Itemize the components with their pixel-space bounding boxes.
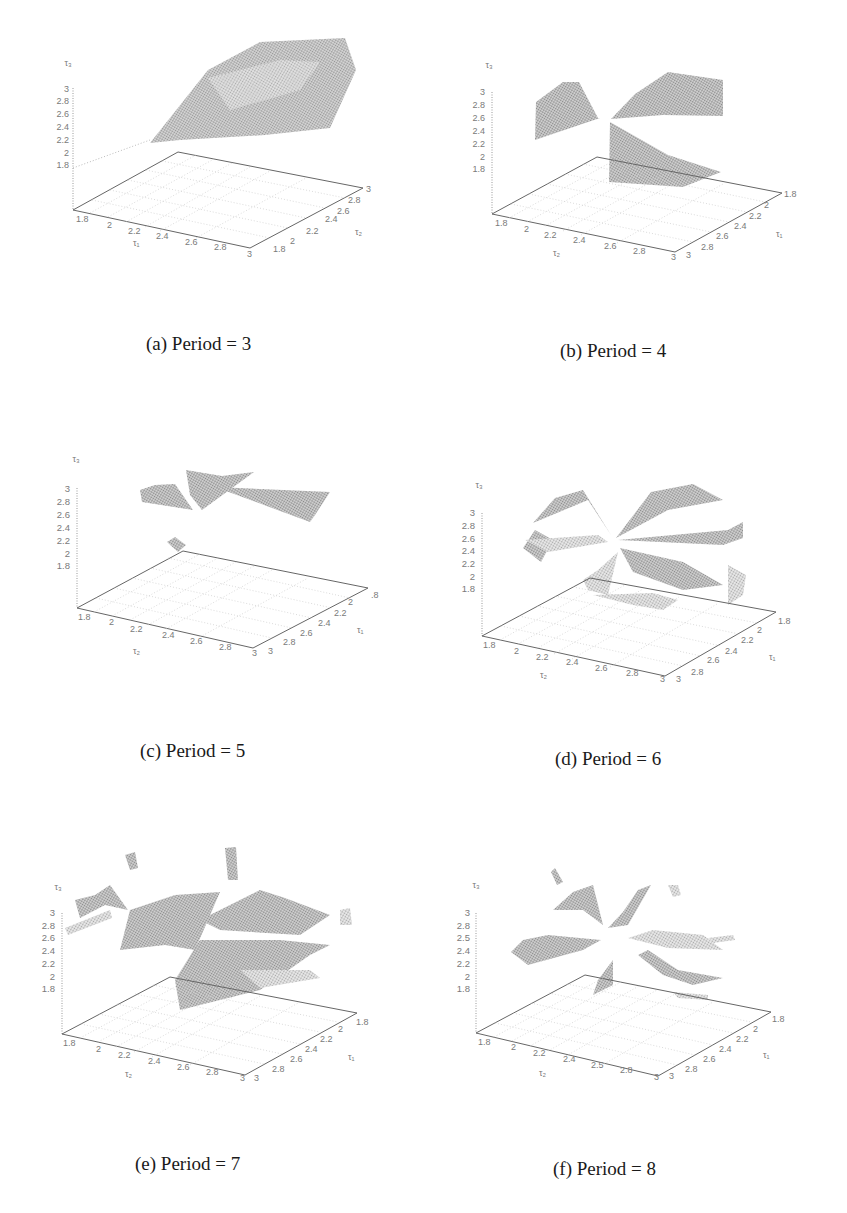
svg-text:2.6: 2.6 [190,636,203,646]
surface-region [523,484,746,610]
z-axis: 3 2.8 2.6 2.4 2.2 2 1.8 τ₃ [57,454,80,608]
panel-a: 3 2.8 2.6 2.4 2.2 2 1.8 τ₃ 1.822.2 2.42.… [0,0,423,380]
svg-text:2.4: 2.4 [734,221,747,231]
caption-f: (f) Period = 8 [553,1158,656,1180]
svg-text:2: 2 [290,236,295,246]
svg-text:1.8: 1.8 [495,218,508,228]
svg-text:1.8: 1.8 [57,560,70,571]
svg-text:1.8: 1.8 [273,244,286,254]
svg-text:2: 2 [465,971,470,982]
svg-text:2.2: 2.2 [472,139,485,149]
x-axis-ticks: 1.822.2 2.42.62.8 3 τ₂ [63,1038,245,1083]
plot-3d-period-3: 3 2.8 2.6 2.4 2.2 2 1.8 τ₃ 1.822.2 2.42.… [0,0,423,380]
z-axis: 3 2.8 2.6 2.4 2.2 2 1.8 τ₃ [56,58,73,210]
svg-text:2.2: 2.2 [320,1034,333,1044]
svg-text:2: 2 [107,220,112,230]
surface-region [511,868,735,1000]
svg-text:3: 3 [268,646,273,656]
svg-text:2.8: 2.8 [462,520,475,531]
svg-text:2.8: 2.8 [214,242,227,252]
svg-text:2.8: 2.8 [57,496,70,507]
svg-text:3: 3 [65,483,70,494]
x-axis-ticks: 1.822.2 2.42.62.8 3 τ₂ [78,612,257,658]
svg-text:2.4: 2.4 [56,122,69,132]
z-axis: 3 2.8 2.6 2.4 2.2 2 1.8 τ₃ [462,480,483,636]
svg-text:2.4: 2.4 [318,618,331,628]
x-axis-label: τ₂ [553,248,561,258]
panel-e: 3 2.8 2.6 2.4 2.2 2 1.8 τ₃ 1.822.2 2.42.… [0,800,423,1213]
svg-text:2.6: 2.6 [595,663,608,673]
svg-text:2.8: 2.8 [620,1065,633,1075]
svg-text:2.2: 2.2 [533,1048,546,1058]
svg-text:2.4: 2.4 [305,1044,318,1054]
svg-text:2.4: 2.4 [566,657,579,667]
caption-b: (b) Period = 4 [560,340,666,362]
svg-text:1.8: 1.8 [76,214,89,224]
svg-text:2.6: 2.6 [290,1054,303,1064]
svg-text:2.8: 2.8 [42,920,55,931]
svg-text:1.8: 1.8 [42,983,55,994]
svg-text:2.8: 2.8 [56,96,69,106]
caption-c: (c) Period = 5 [140,740,245,762]
svg-text:2.6: 2.6 [177,1062,190,1072]
svg-text:1.8: 1.8 [457,983,470,994]
svg-text:2.2: 2.2 [57,535,70,546]
y-axis-label: τ₂ [355,227,363,237]
svg-text:2.4: 2.4 [563,1054,576,1064]
svg-text:2.6: 2.6 [42,932,55,943]
y-axis-label: τ₁ [769,652,776,662]
svg-text:3: 3 [676,674,681,684]
svg-text:2: 2 [524,224,529,234]
svg-text:2.4: 2.4 [573,235,586,245]
svg-text:3: 3 [669,1071,674,1081]
z-axis-label: τ₃ [72,454,80,464]
svg-text:2.2: 2.2 [118,1050,131,1060]
svg-text:2.6: 2.6 [707,655,720,665]
svg-text:1.8: 1.8 [56,160,69,170]
svg-text:3: 3 [470,507,475,518]
svg-text:.8: .8 [371,590,379,600]
surface-region [73,38,356,168]
caption-a: (a) Period = 3 [146,333,251,355]
svg-text:2.6: 2.6 [337,206,350,216]
svg-text:1.8: 1.8 [778,616,791,626]
svg-text:3: 3 [480,87,485,97]
x-axis-label: τ₂ [133,646,141,656]
x-axis-label: τ₂ [539,1068,547,1078]
panel-b: 3 2.8 2.6 2.4 2.2 2 1.8 τ₃ 1.822.2 2.42.… [423,0,847,380]
svg-text:3: 3 [252,648,257,658]
z-axis: 3 2.8 2.5 2.4 2.2 2 1.8 τ₃ [457,880,480,1033]
y-axis-label: τ₁ [348,1052,355,1062]
svg-text:3: 3 [366,184,371,194]
z-axis-label: τ₃ [475,480,483,490]
svg-text:2.8: 2.8 [685,1064,698,1074]
svg-text:2: 2 [65,548,70,559]
z-axis-label: τ₃ [54,882,62,892]
svg-text:2.8: 2.8 [691,667,704,677]
svg-text:2.2: 2.2 [457,958,470,969]
svg-text:2.8: 2.8 [283,637,296,647]
svg-text:2.4: 2.4 [156,231,169,241]
z-axis: 3 2.8 2.6 2.4 2.2 2 1.8 τ₃ [472,60,492,214]
svg-text:2.6: 2.6 [703,1054,716,1064]
svg-text:2.6: 2.6 [185,237,198,247]
svg-text:2.5: 2.5 [591,1060,604,1070]
svg-text:2.2: 2.2 [56,135,69,145]
base-plane [77,551,368,648]
y-axis-ticks: 32.82.6 2.42.22 1.8 τ₁ [676,616,791,684]
svg-text:2.4: 2.4 [462,545,475,556]
svg-text:2.6: 2.6 [462,533,475,544]
svg-text:1.8: 1.8 [784,189,797,199]
y-axis-label: τ₁ [763,1050,770,1060]
svg-text:1.8: 1.8 [462,583,475,594]
svg-text:3: 3 [64,84,69,94]
x-axis-label: τ₁ [133,238,140,248]
y-axis-ticks: 32.82.6 2.42.22 .8 τ₁ [268,590,379,656]
svg-text:3: 3 [654,1072,659,1082]
svg-text:3: 3 [247,249,252,259]
svg-text:2: 2 [753,1024,758,1034]
svg-text:2.8: 2.8 [457,920,470,931]
svg-text:2: 2 [514,646,519,656]
svg-text:2.4: 2.4 [719,1044,732,1054]
plot-3d-period-6: 3 2.8 2.6 2.4 2.2 2 1.8 τ₃ 1.822.2 2.42.… [423,400,847,800]
